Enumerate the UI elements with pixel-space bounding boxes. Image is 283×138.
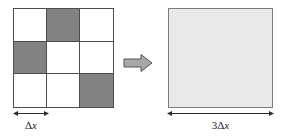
dimension-line-3-delta-x [166, 109, 275, 118]
grid-cell-r3c1 [14, 74, 47, 107]
coarse-square [168, 8, 273, 108]
grid-cell-r1c3 [80, 9, 113, 42]
dimension-line-delta-x [12, 109, 50, 118]
grid-cell-r3c2 [47, 74, 80, 107]
fine-grid [13, 8, 114, 108]
label-3-delta-x: 3Δx [166, 119, 275, 132]
coarse-graining-figure: Δx 3Δx [0, 0, 283, 138]
grid-cell-r1c2 [47, 9, 80, 42]
dimension-arrow-right-svg [166, 109, 275, 118]
dimension-arrow-left-svg [12, 109, 50, 118]
grid-cell-r2c2 [47, 42, 80, 75]
fine-grid-panel [13, 8, 114, 108]
grid-cell-r1c1 [14, 9, 47, 42]
transform-arrow-icon [123, 53, 153, 73]
grid-cell-r2c1 [14, 42, 47, 75]
grid-cell-r2c3 [80, 42, 113, 75]
label-3-delta-x-var: x [224, 119, 229, 131]
label-delta-x: Δx [12, 119, 50, 132]
label-delta-x-var: x [32, 119, 37, 131]
transform-arrow [123, 53, 153, 73]
grid-cell-r3c3 [80, 74, 113, 107]
